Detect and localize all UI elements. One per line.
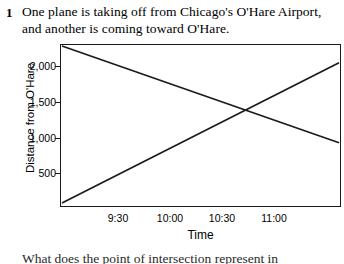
y-tick-label: 1,000 — [12, 133, 56, 144]
y-tick-label: 2,000 — [12, 61, 56, 72]
y-tick-label: 1,500 — [12, 97, 56, 108]
chart-figure: Distance from O'Hare 2,000 1,500 1,000 5… — [0, 40, 344, 250]
departing-plane-line — [62, 63, 339, 203]
question-block: 1 One plane is taking off from Chicago's… — [0, 0, 344, 40]
x-tick-label: 10:30 — [192, 212, 252, 224]
x-tick-label: 10:00 — [140, 212, 200, 224]
followup-question-text: What does the point of intersection repr… — [22, 251, 342, 264]
y-axis-tick-labels: 2,000 1,500 1,000 500 — [12, 40, 56, 210]
plot-area — [60, 44, 341, 207]
plot-lines-svg — [61, 45, 340, 206]
x-axis-title: Time — [60, 228, 341, 242]
question-text: One plane is taking off from Chicago's O… — [22, 4, 340, 37]
x-tick-label: 9:30 — [88, 212, 148, 224]
arriving-plane-line — [62, 46, 339, 143]
question-number: 1 — [6, 5, 13, 21]
y-tick-label: 500 — [12, 168, 56, 179]
x-axis-tick-labels: 9:30 10:00 10:30 11:00 — [60, 212, 341, 226]
x-tick-label: 11:00 — [244, 212, 304, 224]
